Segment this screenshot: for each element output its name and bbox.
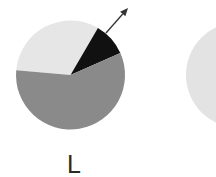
arrow-annotation	[106, 8, 128, 33]
pie-chart-figure	[0, 0, 216, 177]
pie-slice-light	[186, 22, 216, 128]
pie-chart-right	[186, 22, 216, 128]
arrow-shaft	[106, 14, 123, 33]
pie-chart-left	[16, 21, 125, 130]
pie-label-l: L	[60, 150, 88, 177]
